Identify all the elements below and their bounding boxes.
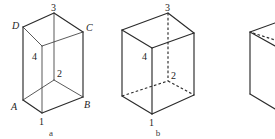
edge-a-interior-top-to-4: [23, 27, 42, 46]
edge-a-interior-2-to-b: [54, 80, 83, 97]
edge-b-outline-bottom-left: [122, 96, 152, 114]
edge-b-top-left-inner: [122, 30, 152, 48]
vertex-label-D: D: [11, 20, 20, 31]
vertex-label-C: C: [86, 22, 93, 33]
vertex-label-a-4: 4: [32, 51, 37, 62]
edge-b-top-right-inner: [152, 33, 194, 48]
edge-b-hidden-to-left: [122, 81, 168, 96]
vertex-label-B: B: [84, 99, 90, 110]
vertex-label-b-1: 1: [149, 117, 154, 128]
vertex-label-a-3: 3: [51, 2, 56, 13]
edge-a-outline-top-right: [54, 13, 83, 32]
edge-b-hidden-to-right: [168, 81, 194, 95]
panel-c-cube: [250, 23, 275, 109]
edge-a-outline-top-left: [23, 13, 54, 27]
vertex-label-a-2: 2: [57, 68, 62, 79]
edge-b-outline-bottom-right: [152, 95, 194, 114]
vertex-label-b-3: 3: [165, 2, 170, 13]
panel-b-caption: b: [156, 128, 161, 138]
figure-sheet: D 3 C 4 2 A B 1 a 3: [0, 0, 275, 139]
edge-a-interior-a-to-2: [23, 80, 54, 100]
cube-figure-svg: D 3 C 4 2 A B 1 a 3: [0, 0, 275, 139]
vertex-label-b-2: 2: [171, 70, 176, 81]
panel-b-cube: 3 4 2 1 b: [122, 2, 194, 138]
edge-c-hidden-to-left: [253, 33, 275, 40]
vertex-label-b-4: 4: [142, 51, 147, 62]
edge-c-outline-top-left: [250, 23, 275, 32]
vertex-label-A: A: [10, 101, 18, 112]
edge-c-outline-bottom-left: [250, 94, 275, 109]
panel-a-cube: D 3 C 4 2 A B 1 a: [10, 2, 93, 138]
edge-b-outline-top-right: [168, 13, 194, 33]
edge-a-outline-bottom-left: [23, 100, 42, 113]
panel-a-caption: a: [49, 128, 53, 138]
edge-a-outline-bottom-right: [42, 97, 83, 113]
vertex-label-a-1: 1: [39, 116, 44, 127]
edge-a-interior-4-to-c: [42, 32, 83, 46]
edge-b-outline-top-left: [122, 13, 168, 30]
